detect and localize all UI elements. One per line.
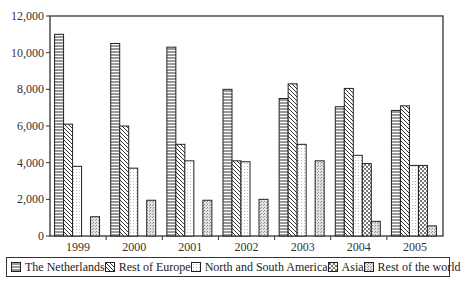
legend-item: Rest of the world: [364, 260, 461, 275]
bar-asia: [418, 165, 427, 236]
y-tick-label: 10,000: [11, 46, 44, 60]
chart-legend: The NetherlandsRest of EuropeNorth and S…: [6, 257, 450, 277]
x-tick-label: 1999: [66, 240, 90, 254]
x-tick-label: 2002: [235, 240, 259, 254]
bar-the-netherlands: [167, 47, 176, 236]
bar-the-netherlands: [335, 107, 344, 236]
bar-rest-of-europe: [400, 106, 409, 236]
bar-north-and-south-america: [409, 165, 418, 236]
legend-item: Asia: [328, 260, 364, 275]
y-tick-label: 12,000: [11, 9, 44, 23]
bar-north-and-south-america: [297, 144, 306, 236]
x-tick-label: 2000: [122, 240, 146, 254]
bar-the-netherlands: [279, 99, 288, 237]
bar-north-and-south-america: [129, 168, 138, 236]
bar-rest-of-europe: [64, 124, 73, 236]
legend-item: The Netherlands: [11, 260, 105, 275]
bar-rest-of-the-world: [427, 226, 436, 236]
legend-label: The Netherlands: [25, 260, 105, 275]
bar-north-and-south-america: [353, 155, 362, 236]
bar-asia: [362, 164, 371, 236]
x-tick-label: 2001: [178, 240, 202, 254]
legend-swatch-icon: [364, 262, 374, 272]
bar-rest-of-the-world: [203, 200, 212, 236]
y-tick-label: 8,000: [17, 82, 44, 96]
bar-rest-of-europe: [176, 144, 185, 236]
legend-swatch-icon: [328, 262, 338, 272]
y-tick-label: 6,000: [17, 119, 44, 133]
bar-rest-of-the-world: [147, 200, 156, 236]
bar-the-netherlands: [55, 34, 64, 236]
bar-rest-of-europe: [120, 126, 129, 236]
bar-rest-of-the-world: [259, 199, 268, 236]
legend-label: Asia: [342, 260, 364, 275]
bar-rest-of-the-world: [91, 217, 100, 236]
bar-north-and-south-america: [241, 162, 250, 236]
bar-rest-of-the-world: [371, 221, 380, 236]
bar-the-netherlands: [391, 110, 400, 236]
legend-label: Rest of the world: [378, 260, 461, 275]
x-tick-label: 2003: [291, 240, 315, 254]
bar-rest-of-europe: [288, 84, 297, 236]
bar-north-and-south-america: [73, 166, 82, 236]
bar-north-and-south-america: [185, 161, 194, 236]
bar-the-netherlands: [223, 89, 232, 236]
y-tick-label: 4,000: [17, 156, 44, 170]
legend-label: North and South America: [205, 260, 328, 275]
legend-swatch-icon: [105, 262, 115, 272]
legend-item: Rest of Europe: [105, 260, 191, 275]
bar-rest-of-the-world: [315, 161, 324, 236]
bar-chart: 02,0004,0006,0008,00010,00012,0001999200…: [0, 0, 457, 255]
y-tick-label: 2,000: [17, 192, 44, 206]
legend-item: North and South America: [191, 260, 328, 275]
x-tick-label: 2004: [347, 240, 371, 254]
bar-rest-of-europe: [344, 88, 353, 236]
x-tick-label: 2005: [403, 240, 427, 254]
y-tick-label: 0: [38, 229, 44, 243]
bar-rest-of-europe: [232, 161, 241, 236]
bar-the-netherlands: [111, 44, 120, 237]
legend-swatch-icon: [191, 262, 201, 272]
legend-swatch-icon: [11, 262, 21, 272]
legend-label: Rest of Europe: [119, 260, 191, 275]
